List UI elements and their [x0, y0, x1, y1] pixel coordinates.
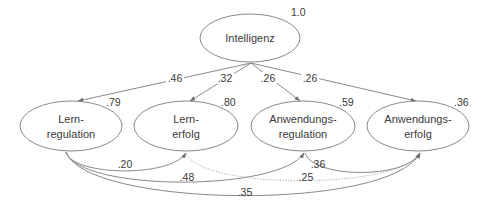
r2-anwendungsregulation: .59: [339, 96, 354, 108]
coef-label-36: .36: [311, 158, 326, 170]
coef-label-48: .48: [180, 171, 195, 183]
r2-lernregulation: .79: [106, 96, 121, 108]
coef-label-26b: .26: [301, 72, 319, 84]
coef-label-25: .25: [299, 171, 314, 183]
svg-text:.32: .32: [218, 72, 233, 84]
path-diagram: .46 .32 .26 .26 .20 .48 .35 .25 .36 Inte…: [0, 0, 489, 208]
node-label-lernerfolg-2: erfolg: [172, 128, 200, 140]
node-label-anwendungsregulation-1: Anwendungs-: [269, 113, 337, 125]
node-label-lernregulation-2: regulation: [47, 128, 95, 140]
node-anwendungsregulation: Anwendungs- regulation .59: [251, 96, 355, 151]
node-intelligenz: Intelligenz 1.0: [200, 6, 306, 62]
svg-text:.46: .46: [168, 72, 183, 84]
node-label-intelligenz: Intelligenz: [225, 32, 275, 44]
coef-label-35: .35: [238, 186, 253, 198]
node-label-anwendungserfolg-1: Anwendungs-: [384, 113, 452, 125]
coef-label-20: .20: [118, 158, 133, 170]
svg-text:.26: .26: [303, 72, 318, 84]
node-anwendungserfolg: Anwendungs- erfolg .36: [367, 96, 469, 151]
node-lernerfolg: Lern- erfolg .80: [134, 96, 238, 151]
node-label-anwendungsregulation-2: regulation: [279, 128, 327, 140]
r2-anwendungserfolg: .36: [454, 96, 469, 108]
node-label-lernerfolg-1: Lern-: [173, 113, 199, 125]
coef-label-26a: .26: [259, 72, 277, 84]
node-label-lernregulation-1: Lern-: [58, 113, 84, 125]
coef-label-46: .46: [166, 72, 184, 84]
r2-intelligenz: 1.0: [291, 6, 306, 18]
svg-text:.26: .26: [261, 72, 276, 84]
node-lernregulation: Lern- regulation .79: [20, 96, 122, 151]
coef-label-32: .32: [216, 72, 234, 84]
r2-lernerfolg: .80: [221, 96, 236, 108]
node-label-anwendungserfolg-2: erfolg: [404, 128, 432, 140]
